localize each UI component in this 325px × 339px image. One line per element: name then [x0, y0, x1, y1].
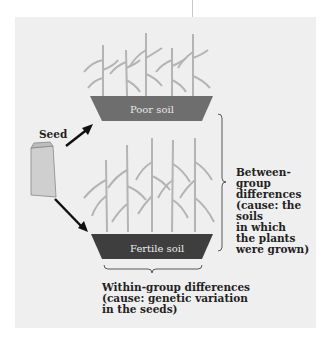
within-group-text: Within-group differences (cause: genetic… [102, 282, 250, 315]
fertile-soil-plants [84, 138, 214, 232]
seed-bag-icon [31, 142, 56, 197]
poor-soil-plants [84, 33, 210, 96]
arrows [55, 124, 93, 232]
seed-label: Seed [39, 129, 67, 140]
between-group-brace [218, 114, 226, 251]
poor-soil-label: Poor soil [130, 104, 174, 115]
within-group-brace [104, 265, 202, 273]
between-group-text: Between-group differences (cause: the so… [236, 167, 325, 255]
arrow-to-fertile-soil [55, 199, 83, 228]
fertile-soil-label: Fertile soil [130, 243, 184, 254]
